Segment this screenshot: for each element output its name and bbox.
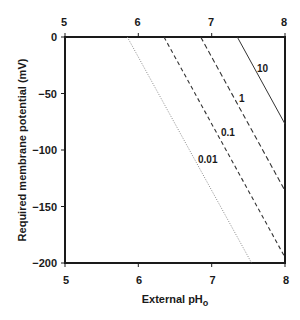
series-label: 10 <box>257 63 269 74</box>
x-top-tick-label: 5 <box>61 16 67 28</box>
x-tick-label: 8 <box>283 274 289 286</box>
y-tick-label: −50 <box>38 88 57 100</box>
y-axis: 0 −50 −100 −150 −200 <box>32 31 65 269</box>
y-tick-label: −150 <box>32 201 57 213</box>
x-tick-label: 6 <box>136 274 142 286</box>
x-top-tick-label: 7 <box>208 16 214 28</box>
plot-area <box>65 37 285 263</box>
y-tick-label: −200 <box>32 257 57 269</box>
series-label: 1 <box>239 93 245 104</box>
x-axis-title: External pHo <box>142 293 209 308</box>
x-axis-title-subscript: o <box>203 298 209 308</box>
x-tick-label: 5 <box>63 274 69 286</box>
x-tick-label: 7 <box>209 274 215 286</box>
x-axis-bottom: 5 6 7 8 <box>63 263 289 286</box>
series-label: 0.01 <box>198 154 218 165</box>
x-axis-title-main: External pH <box>142 293 203 305</box>
y-axis-title: Required membrane potential (mV) <box>16 58 28 241</box>
x-top-tick-label: 8 <box>281 16 287 28</box>
x-axis-top: 5 6 7 8 <box>61 16 287 37</box>
y-tick-label: 0 <box>51 31 57 43</box>
series-label: 0.1 <box>221 127 235 138</box>
y-tick-label: −100 <box>32 144 57 156</box>
x-top-tick-label: 6 <box>134 16 140 28</box>
chart: 0 −50 −100 −150 −200 5 6 7 8 5 6 7 8 10 … <box>0 0 300 320</box>
